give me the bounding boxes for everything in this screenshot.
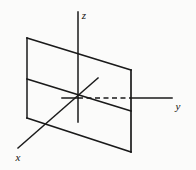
z-axis-label: z <box>81 9 87 21</box>
coordinate-axes-figure: z y x <box>0 0 196 170</box>
coordinate-axes-svg: z y x <box>0 0 196 170</box>
y-axis-label: y <box>175 100 181 112</box>
figure-background <box>0 0 196 170</box>
x-axis-label: x <box>15 151 21 163</box>
